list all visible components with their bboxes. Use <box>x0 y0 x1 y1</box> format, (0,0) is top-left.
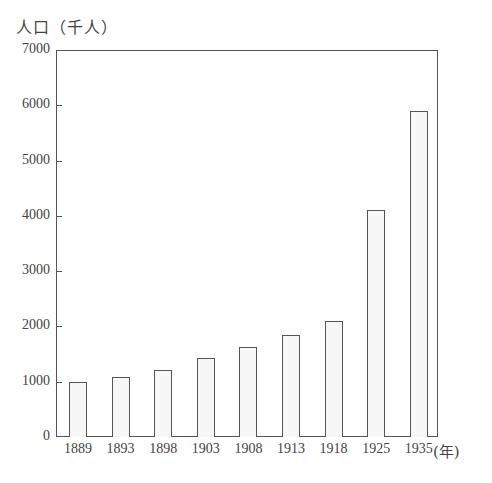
bar-1903 <box>197 358 215 437</box>
y-tick-mark <box>56 105 62 106</box>
x-tick-label: 1889 <box>57 441 99 457</box>
y-tick-mark <box>56 326 62 327</box>
y-tick-label: 7000 <box>0 41 50 57</box>
y-tick-label: 5000 <box>0 152 50 168</box>
y-tick-label: 1000 <box>0 373 50 389</box>
x-tick-label: 1898 <box>142 441 184 457</box>
x-tick-label: 1913 <box>270 441 312 457</box>
y-axis-title: 人口（千人） <box>16 14 118 38</box>
bar-1918 <box>325 321 343 437</box>
y-tick-mark <box>56 382 62 383</box>
y-tick-mark <box>56 161 62 162</box>
x-tick-label: 1893 <box>100 441 142 457</box>
y-tick-label: 3000 <box>0 262 50 278</box>
y-tick-label: 2000 <box>0 317 50 333</box>
y-tick-label: 6000 <box>0 96 50 112</box>
y-tick-mark <box>56 216 62 217</box>
x-tick-label: 1925 <box>355 441 397 457</box>
x-tick-label: 1908 <box>227 441 269 457</box>
x-tick-label: 1903 <box>185 441 227 457</box>
bar-1913 <box>282 335 300 437</box>
x-tick-label: 1918 <box>313 441 355 457</box>
bar-1925 <box>367 210 385 437</box>
y-tick-label: 4000 <box>0 207 50 223</box>
bar-1893 <box>112 377 130 437</box>
bar-1908 <box>239 347 257 437</box>
bar-1889 <box>69 382 87 437</box>
y-tick-label: 0 <box>0 428 50 444</box>
bar-1935 <box>410 111 428 437</box>
bar-1898 <box>154 370 172 437</box>
y-tick-mark <box>56 271 62 272</box>
x-axis-unit: (年) <box>433 440 460 461</box>
